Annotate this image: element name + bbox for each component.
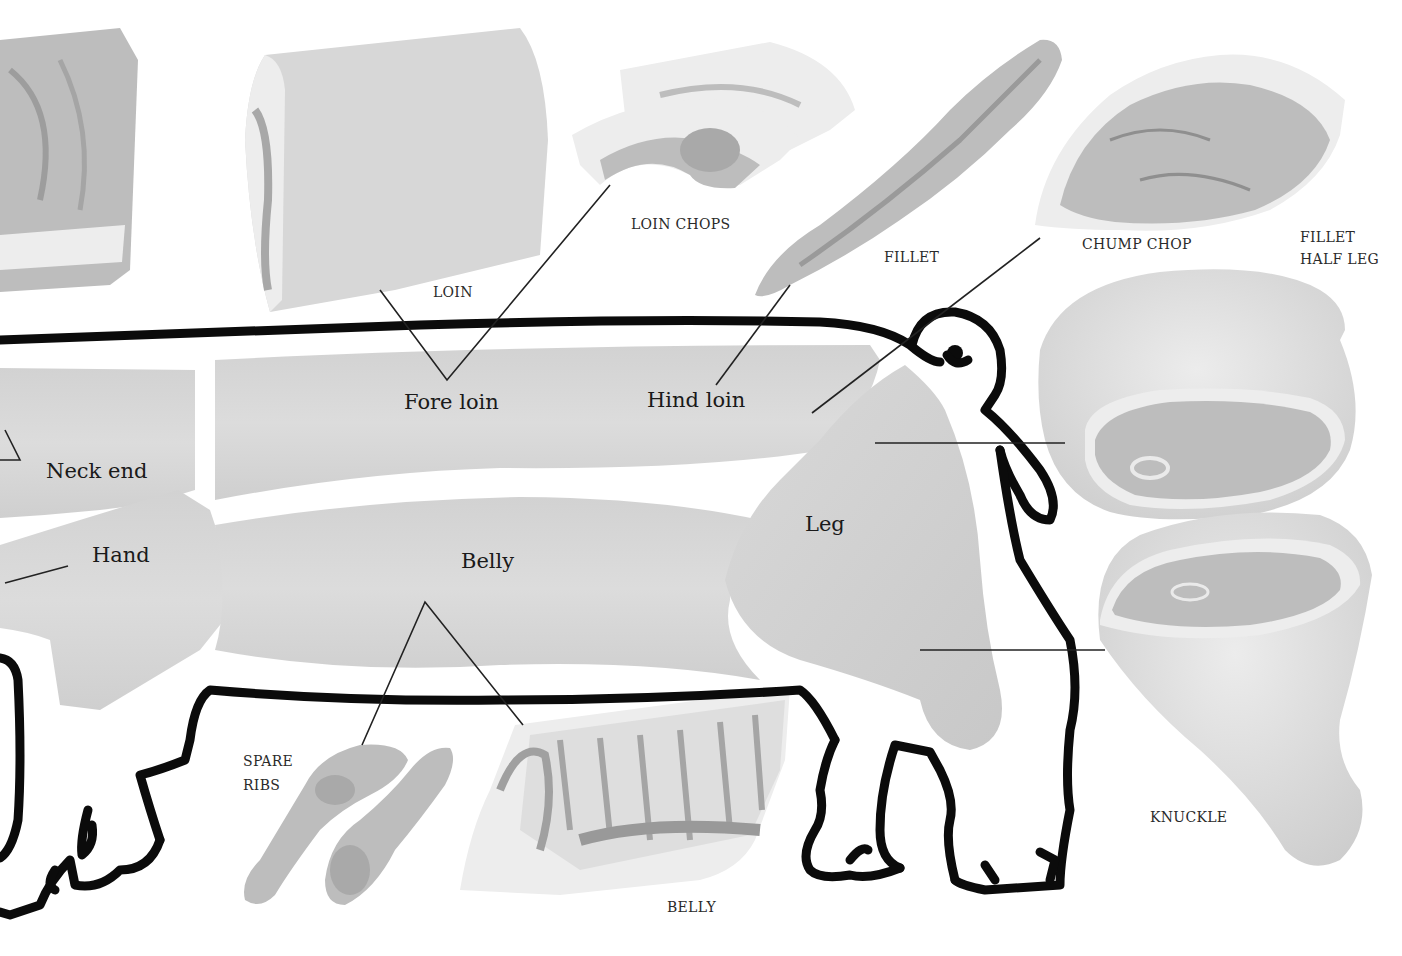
region-belly[interactable] <box>215 497 760 680</box>
belly-cut-illustration <box>460 688 790 895</box>
label-fore-loin: Fore loin <box>404 390 499 414</box>
label-loin-chops: LOIN CHOPS <box>631 216 730 232</box>
label-hand: Hand <box>92 543 150 567</box>
shoulder-cut-illustration <box>0 28 138 292</box>
label-belly-cut: BELLY <box>667 899 716 915</box>
label-spare-ribs-line1: SPARE <box>243 753 293 769</box>
label-hind-loin: Hind loin <box>647 388 745 412</box>
label-neck-end: Neck end <box>46 459 147 483</box>
label-spare-ribs-line2: RIBS <box>243 777 280 793</box>
fillet-half-leg-illustration <box>1038 269 1355 519</box>
label-fillet-half-leg-line1: FILLET <box>1300 229 1356 245</box>
region-hand[interactable] <box>0 490 240 710</box>
label-belly: Belly <box>461 549 514 573</box>
label-fillet-half-leg-line2: HALF LEG <box>1300 251 1379 267</box>
loin-chops-illustration <box>572 42 855 188</box>
label-chump-chop: CHUMP CHOP <box>1082 236 1192 252</box>
loin-cut-illustration <box>245 28 548 312</box>
region-loin[interactable] <box>215 345 880 500</box>
label-knuckle: KNUCKLE <box>1150 809 1227 825</box>
label-leg: Leg <box>805 512 845 536</box>
label-fillet: FILLET <box>884 249 940 265</box>
pork-cuts-diagram: Neck end Hand Fore loin Hind loin Belly … <box>0 0 1402 956</box>
label-loin: LOIN <box>433 284 473 300</box>
knuckle-illustration <box>1098 513 1372 866</box>
chump-chop-illustration <box>1035 55 1345 231</box>
